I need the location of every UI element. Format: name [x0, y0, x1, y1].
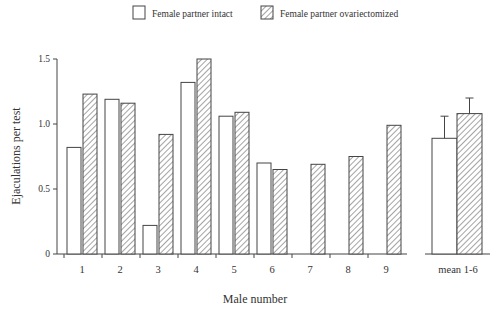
bar-chart: Female partner intact Female partner ova… — [0, 0, 503, 317]
x-tick-label: 8 — [345, 264, 350, 275]
x-tick-label: 9 — [383, 264, 388, 275]
bar-ovx-male-3 — [159, 134, 173, 254]
svg-text:1.5: 1.5 — [38, 54, 50, 64]
bar-mean-intact — [432, 138, 457, 254]
x-axis-label: Male number — [223, 292, 287, 306]
x-tick-label: 7 — [307, 264, 312, 275]
bar-ovx-male-2 — [121, 103, 135, 254]
bar-ovx-male-8 — [349, 157, 363, 255]
y-tick-labels: 1.5 1.0 0.5 0 — [38, 54, 50, 259]
svg-text:0.5: 0.5 — [38, 184, 50, 194]
svg-text:1.0: 1.0 — [38, 119, 50, 129]
bar-ovx-male-1 — [83, 94, 97, 254]
bar-intact-male-1 — [67, 147, 81, 254]
legend: Female partner intact Female partner ova… — [133, 6, 398, 19]
legend-label-intact: Female partner intact — [152, 9, 233, 19]
bar-intact-male-5 — [219, 116, 233, 254]
bar-ovx-male-7 — [311, 164, 325, 254]
x-tick-label: 5 — [231, 264, 236, 275]
bars — [64, 59, 482, 258]
x-tick-label-mean: mean 1-6 — [438, 264, 477, 275]
x-tick-label: 6 — [269, 264, 274, 275]
legend-swatch-ovx — [261, 6, 273, 19]
bar-ovx-male-6 — [273, 170, 287, 255]
bar-ovx-male-9 — [387, 125, 401, 254]
x-tick-label: 4 — [193, 264, 199, 275]
bar-mean-ovx — [457, 114, 482, 254]
legend-label-ovx: Female partner ovariectomized — [280, 9, 398, 19]
x-tick-label: 1 — [79, 264, 84, 275]
bar-intact-male-6 — [257, 163, 271, 254]
y-axis — [53, 59, 57, 254]
x-tick-label: 3 — [155, 264, 160, 275]
bar-ovx-male-5 — [235, 112, 249, 254]
bar-intact-male-3 — [143, 225, 157, 254]
bar-ovx-male-4 — [197, 59, 211, 254]
bar-intact-male-4 — [181, 82, 195, 254]
x-tick-labels: 123456789mean 1-6 — [79, 264, 477, 275]
svg-text:0: 0 — [45, 249, 50, 259]
legend-swatch-intact — [133, 6, 145, 19]
bar-intact-male-2 — [105, 99, 119, 254]
y-axis-label: Ejaculations per test — [9, 107, 23, 205]
x-tick-label: 2 — [117, 264, 122, 275]
